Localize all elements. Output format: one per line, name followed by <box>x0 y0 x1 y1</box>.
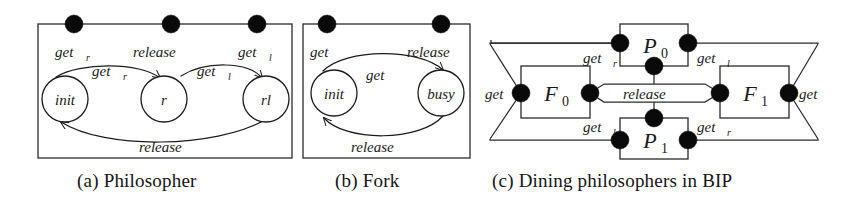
state-r-label: r <box>161 92 167 108</box>
caption-dining-philosophers: (c) Dining philosophers in BIP <box>492 170 732 192</box>
panel-fork: get release get release init busy <box>303 15 470 158</box>
connector-label-get-r-top-sub: r <box>613 58 617 69</box>
release-port-label: release <box>407 44 450 60</box>
p1-release-port[interactable] <box>645 109 663 127</box>
connector-label-get-l-top-sub: l <box>727 58 730 69</box>
p0-get-r-port[interactable] <box>611 34 629 52</box>
p1-get-r-port[interactable] <box>679 131 697 149</box>
get-l-port[interactable] <box>248 15 266 33</box>
f0-get-port[interactable] <box>512 84 530 102</box>
get-r-port[interactable] <box>65 15 83 33</box>
transition-label-release: release <box>139 139 182 155</box>
transition-label-release: release <box>351 139 394 155</box>
connector-label-release-mid: release <box>623 86 666 102</box>
state-rl-label: rl <box>261 92 271 108</box>
state-busy-label: busy <box>427 86 455 102</box>
connector-get-l-bottom-rail <box>490 139 620 140</box>
transition-arc-release <box>324 116 443 136</box>
connector-label-get-r-bottom: get <box>697 119 716 135</box>
f1-get-port[interactable] <box>780 84 798 102</box>
get-port[interactable] <box>318 15 336 33</box>
transition-label-get-l: get <box>197 63 216 79</box>
component-f0-label: F <box>543 81 558 106</box>
connector-label-get-right: get <box>799 86 818 102</box>
f1-release-port[interactable] <box>711 84 729 102</box>
panel-philosopher: get r release get l get r get l release … <box>38 15 292 158</box>
release-port-label: release <box>133 44 176 60</box>
connector-label-get-r-bottom-sub: r <box>727 127 731 138</box>
component-p1-label: P <box>642 128 656 153</box>
transition-label-get-l-sub: l <box>228 71 231 82</box>
get-r-port-label-sub: r <box>86 52 90 63</box>
get-port-label: get <box>310 44 329 60</box>
component-f0-label-sub: 0 <box>562 94 569 109</box>
transition-label-get-r-sub: r <box>123 71 127 82</box>
release-port[interactable] <box>432 15 450 33</box>
connector-label-get-left: get <box>485 86 504 102</box>
connector-label-get-l-bottom: get <box>583 119 602 135</box>
connector-label-get-l-top: get <box>697 50 716 66</box>
connector-label-get-l-bottom-sub: l <box>613 127 616 138</box>
component-p0-label: P <box>642 33 656 58</box>
connector-get-r-bottom-rail <box>688 139 818 140</box>
connector-get-r-top-rail <box>490 43 620 44</box>
get-l-port-label-sub: l <box>269 52 272 63</box>
component-f1-label: F <box>742 81 757 106</box>
figure-container: get r release get l get r get l release … <box>0 0 849 212</box>
p0-get-l-port[interactable] <box>679 34 697 52</box>
release-port[interactable] <box>162 15 180 33</box>
caption-fork: (b) Fork <box>335 170 399 192</box>
get-r-port-label: get <box>55 44 74 60</box>
component-p0-label-sub: 0 <box>661 46 668 61</box>
state-init-label: init <box>324 86 345 102</box>
component-p1-label-sub: 1 <box>661 141 668 156</box>
component-f1-label-sub: 1 <box>761 94 768 109</box>
connector-get-l-top-rail <box>688 43 818 44</box>
transition-arc-get-l <box>181 65 262 78</box>
connector-label-get-r-top: get <box>583 50 602 66</box>
state-init-label: init <box>55 92 76 108</box>
transition-label-get: get <box>366 67 385 83</box>
get-l-port-label: get <box>238 44 257 60</box>
p0-release-port[interactable] <box>645 57 663 75</box>
f0-release-port[interactable] <box>581 84 599 102</box>
panel-dining-philosophers: P 0 P 1 F 0 F 1 get r get l get <box>485 24 818 159</box>
transition-label-get-r: get <box>92 63 111 79</box>
caption-philosopher: (a) Philosopher <box>77 170 197 192</box>
